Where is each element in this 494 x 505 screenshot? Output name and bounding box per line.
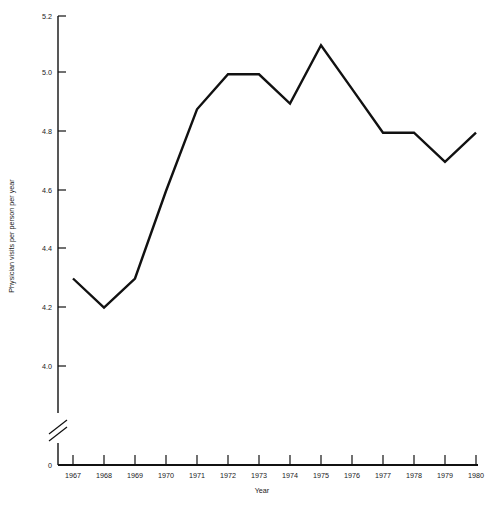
x-tick-label-1967: 1967 [65, 471, 81, 480]
x-tick-label-1978: 1978 [406, 471, 422, 480]
y-tick-label-zero: 0 [48, 461, 52, 470]
y-axis-ticks [58, 16, 66, 366]
y-tick-label-5-2: 5.2 [42, 12, 52, 21]
y-tick-label-4-0: 4.0 [42, 362, 52, 371]
x-tick-label-1980: 1980 [468, 471, 484, 480]
x-tick-label-1968: 1968 [96, 471, 112, 480]
x-tick-label-1975: 1975 [313, 471, 329, 480]
x-tick-label-1977: 1977 [375, 471, 391, 480]
x-tick-label-1979: 1979 [437, 471, 453, 480]
x-tick-label-1972: 1972 [220, 471, 236, 480]
y-tick-label-4-2: 4.2 [42, 303, 52, 312]
y-tick-label-5-0: 5.0 [42, 68, 52, 77]
line-chart-canvas: 5.2 5.0 4.8 4.6 4.4 4.2 4.0 0 1967 1968 [0, 0, 494, 505]
x-axis-ticks [73, 455, 476, 465]
y-tick-label-4-4: 4.4 [42, 244, 52, 253]
x-tick-label-1971: 1971 [189, 471, 205, 480]
x-tick-label-1969: 1969 [127, 471, 143, 480]
y-axis-title: Physician visits per person per year [7, 179, 16, 293]
x-tick-label-1973: 1973 [251, 471, 267, 480]
data-series-line [73, 45, 476, 308]
axis-break-icon [49, 420, 67, 441]
x-tick-label-1976: 1976 [344, 471, 360, 480]
x-tick-label-1974: 1974 [282, 471, 298, 480]
x-axis-title: Year [255, 486, 270, 495]
x-tick-label-1970: 1970 [158, 471, 174, 480]
chart-figure: 5.2 5.0 4.8 4.6 4.4 4.2 4.0 0 1967 1968 [0, 0, 494, 505]
y-tick-label-4-6: 4.6 [42, 186, 52, 195]
y-tick-label-4-8: 4.8 [42, 127, 52, 136]
